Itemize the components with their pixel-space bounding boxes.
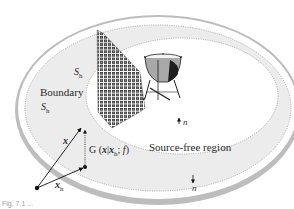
vector-x-label: x: [63, 136, 68, 146]
surface-label-left: Sh: [41, 102, 50, 115]
figure-caption: Fig. 7.1 ...: [2, 200, 33, 207]
normal-label-outer: n: [192, 184, 197, 193]
normal-label-inner: n: [183, 118, 188, 127]
boundary-label: Boundary: [40, 87, 83, 98]
surface-label-top: Sh: [74, 67, 83, 80]
greens-function-label: G (x|xh; f): [89, 145, 129, 158]
vector-xh-label: xh: [55, 180, 64, 193]
source-free-region-label: Source-free region: [149, 142, 231, 153]
diagram-figure: Sh Boundary Sh Source-free region n n x …: [0, 0, 294, 209]
